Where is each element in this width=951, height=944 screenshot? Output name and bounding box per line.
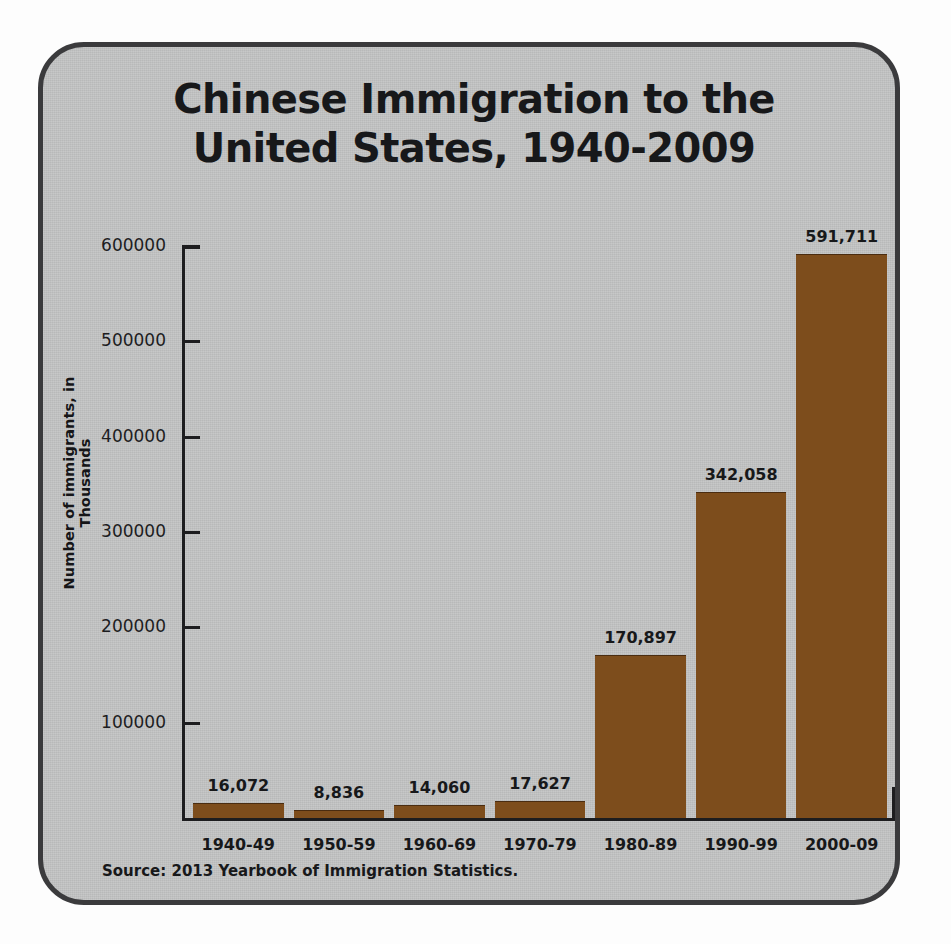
bar[interactable] [294,810,385,818]
bar[interactable] [394,805,485,818]
x-axis-line [182,818,895,821]
y-axis-tick-label: 400000 [66,426,166,446]
y-axis-tick-label: 200000 [66,616,166,636]
x-axis-right-cap [892,787,895,821]
y-axis-tick [182,722,200,725]
bar[interactable] [495,801,586,818]
y-axis-tick-label: 300000 [66,521,166,541]
bar-value-label: 591,711 [752,227,900,246]
bar[interactable] [796,254,887,818]
y-axis-tick-label: 500000 [66,330,166,350]
y-axis-tick [182,245,200,248]
bar[interactable] [696,492,787,818]
y-axis-tick [182,340,200,343]
poster-canvas: Chinese Immigration to the United States… [0,0,951,944]
y-axis-tick [182,436,200,439]
bar[interactable] [193,803,284,818]
bar[interactable] [595,655,686,818]
x-axis-category-label: 2000-09 [752,835,900,854]
y-axis-tick-label: 100000 [66,712,166,732]
y-axis-tick [182,626,200,629]
plot-area: Number of immigrants, in Thousands 10000… [43,47,895,900]
y-axis-tick-label: 600000 [66,235,166,255]
source-note: Source: 2013 Yearbook of Immigration Sta… [102,862,518,880]
chart-card: Chinese Immigration to the United States… [38,42,900,905]
y-axis-title: Number of immigrants, in Thousands [61,353,93,613]
y-axis-tick [182,531,200,534]
